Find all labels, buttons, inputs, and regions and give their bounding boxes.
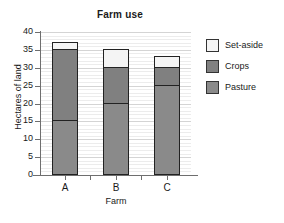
y-axis-tick	[35, 139, 40, 140]
bar-segment-pasture[interactable]	[103, 103, 129, 176]
legend-label: Pasture	[225, 82, 256, 93]
y-axis-line	[40, 31, 41, 176]
plot-area	[41, 32, 191, 175]
farm-use-chart: Farm use 0510152025303540 ABC Hectares o…	[0, 0, 284, 223]
legend-swatch-icon	[206, 39, 219, 52]
bar-segment-crops[interactable]	[154, 67, 180, 86]
x-axis-tick	[90, 176, 91, 180]
bar-segment-crops[interactable]	[103, 67, 129, 104]
chart-title: Farm use	[40, 9, 200, 20]
x-axis-tick	[167, 176, 168, 180]
x-axis-tick-label: B	[101, 182, 131, 193]
y-axis-tick	[35, 121, 40, 122]
x-axis-tick	[116, 176, 117, 180]
y-axis-tick	[35, 104, 40, 105]
y-axis-tick-label: 0	[13, 170, 33, 179]
bar-segment-pasture[interactable]	[154, 85, 180, 175]
bar-stack[interactable]	[154, 32, 180, 175]
bar-segment-set-aside[interactable]	[103, 49, 129, 68]
bar-stack[interactable]	[52, 32, 78, 175]
bar-segment-crops[interactable]	[52, 49, 78, 122]
y-axis-tick	[35, 50, 40, 51]
y-axis-title: Hectares of land	[13, 42, 23, 152]
legend-label: Crops	[225, 61, 249, 72]
legend-swatch-icon	[206, 60, 219, 73]
y-axis-tick	[35, 175, 40, 176]
x-axis-tick-label: C	[152, 182, 182, 193]
y-axis-tick	[35, 32, 40, 33]
x-axis-title: Farm	[41, 196, 191, 206]
x-axis-tick-label: A	[50, 182, 80, 193]
x-axis-tick	[65, 176, 66, 180]
legend-swatch-icon	[206, 81, 219, 94]
y-axis-tick	[35, 157, 40, 158]
y-axis-tick	[35, 86, 40, 87]
legend-label: Set-aside	[225, 40, 263, 51]
x-axis-tick	[141, 176, 142, 180]
y-axis-tick-label: 5	[13, 152, 33, 161]
bar-segment-set-aside[interactable]	[154, 56, 180, 68]
bar-stack[interactable]	[103, 32, 129, 175]
y-axis-tick	[35, 68, 40, 69]
bar-segment-pasture[interactable]	[52, 120, 78, 175]
bar-segment-set-aside[interactable]	[52, 42, 78, 50]
y-axis-tick-label: 40	[13, 27, 33, 36]
